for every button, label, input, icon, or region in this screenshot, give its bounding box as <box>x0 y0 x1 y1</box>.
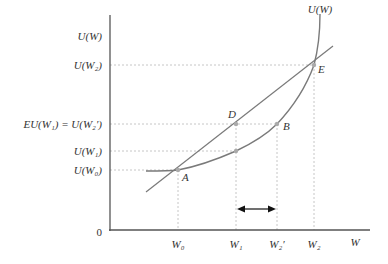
label-B: B <box>283 120 290 132</box>
y-axis-label: U(W) <box>78 30 103 43</box>
label-D: D <box>227 108 236 120</box>
origin-label: 0 <box>97 226 103 238</box>
point-B <box>275 122 279 126</box>
point-uw1 <box>234 149 238 153</box>
utility-diagram: U(W) U(W₂) EU(W₁) = U(W₂′) U(W₁) U(W₀) 0… <box>0 0 388 264</box>
y-tick-eu: EU(W₁) = U(W₂′) <box>22 118 102 131</box>
arrow-left-icon <box>237 206 245 213</box>
y-tick-uw2: U(W₂) <box>74 59 103 72</box>
label-E: E <box>317 63 325 75</box>
x-tick-w0: W₀ <box>172 238 185 250</box>
utility-curve <box>146 14 320 171</box>
guide-lines <box>110 65 314 230</box>
x-tick-w2p: W₂′ <box>269 238 285 250</box>
point-A <box>176 168 180 172</box>
y-tick-uw0: U(W₀) <box>74 164 103 177</box>
arrow-right-icon <box>268 206 276 213</box>
x-axis-label: W <box>350 236 360 248</box>
y-tick-uw1: U(W₁) <box>74 145 103 158</box>
curve-label: U(W) <box>308 3 333 16</box>
double-arrow <box>237 206 276 213</box>
point-D <box>234 122 238 126</box>
points <box>176 63 316 172</box>
x-tick-w2: W₂ <box>308 238 321 250</box>
point-E <box>312 63 316 67</box>
x-tick-w1: W₁ <box>230 238 243 250</box>
label-A: A <box>181 171 189 183</box>
diagram-canvas: U(W) U(W₂) EU(W₁) = U(W₂′) U(W₁) U(W₀) 0… <box>0 0 388 264</box>
